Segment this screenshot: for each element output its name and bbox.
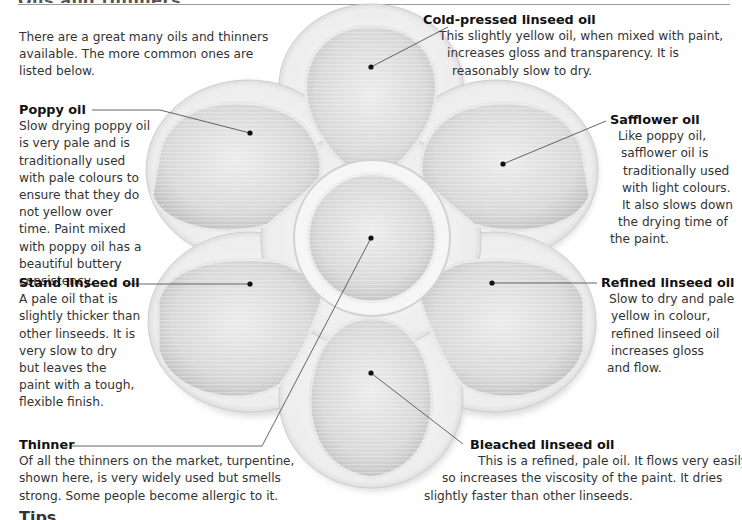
body-line: strong. Some people become allergic to i… xyxy=(19,488,319,505)
entry-body: Like poppy oil, safflower oil is traditi… xyxy=(610,128,740,248)
body-line: Slow drying poppy oil xyxy=(19,118,159,135)
entry-title: Bleached linseed oil xyxy=(430,436,740,453)
intro-line: available. The more common ones are xyxy=(19,46,219,63)
body-line: is very pale and is xyxy=(19,135,159,152)
body-line: with pale colours to xyxy=(19,170,159,187)
body-line: increases gloss and transparency. It is xyxy=(439,45,733,62)
entry-body: A pale oil that is slightly thicker than… xyxy=(19,291,144,411)
body-line: Of all the thinners on the market, turpe… xyxy=(19,453,319,470)
body-line: yellow in colour, xyxy=(609,308,741,325)
cold-pressed-linseed-oil-entry: Cold-pressed linseed oil This slightly y… xyxy=(423,11,733,80)
body-line: and flow. xyxy=(607,360,741,377)
body-line: beautiful buttery xyxy=(19,256,159,273)
body-line: so increases the viscosity of the paint.… xyxy=(430,470,740,487)
body-line: This is a refined, pale oil. It flows ve… xyxy=(430,453,740,470)
body-line: the drying time of xyxy=(618,214,740,231)
intro-line: There are a great many oils and thinners xyxy=(19,29,219,46)
thinner-entry: Thinner Of all the thinners on the marke… xyxy=(19,436,319,505)
next-section-heading-cut: Tips xyxy=(19,508,56,520)
body-line: traditionally used xyxy=(618,163,740,180)
entry-body: Slow drying poppy oil is very pale and i… xyxy=(19,118,159,290)
body-line: slightly thicker than xyxy=(19,308,144,325)
refined-linseed-oil-entry: Refined linseed oil Slow to dry and pale… xyxy=(601,274,741,377)
body-line: increases gloss xyxy=(609,343,741,360)
entry-body: Slow to dry and pale yellow in colour, r… xyxy=(601,291,741,377)
body-line: It also slows down xyxy=(618,197,740,214)
body-line: other linseeds. It is xyxy=(19,326,144,343)
entry-body: Of all the thinners on the market, turpe… xyxy=(19,453,319,505)
body-line: reasonably slow to dry. xyxy=(439,63,733,80)
body-line: time. Paint mixed xyxy=(19,221,159,238)
body-line: the paint. xyxy=(610,231,740,248)
entry-title: Poppy oil xyxy=(19,101,159,118)
body-line: very slow to dry xyxy=(19,343,144,360)
poppy-oil-entry: Poppy oil Slow drying poppy oil is very … xyxy=(19,101,159,290)
stand-linseed-oil-entry: Stand linseed oil A pale oil that is sli… xyxy=(19,274,144,412)
body-line: shown here, is very widely used but smel… xyxy=(19,470,319,487)
body-line: paint with a tough, xyxy=(19,377,144,394)
body-line: but leaves the xyxy=(19,360,144,377)
entry-body: This slightly yellow oil, when mixed wit… xyxy=(423,28,733,80)
intro-line: listed below. xyxy=(19,63,219,80)
intro-paragraph: There are a great many oils and thinners… xyxy=(19,29,219,81)
body-line: ensure that they do xyxy=(19,187,159,204)
body-line: flexible finish. xyxy=(19,394,144,411)
body-line: slightly faster than other linseeds. xyxy=(424,488,740,505)
entry-title: Stand linseed oil xyxy=(19,274,144,291)
body-line: traditionally used xyxy=(19,153,159,170)
bleached-linseed-oil-entry: Bleached linseed oil This is a refined, … xyxy=(430,436,740,505)
body-line: with light colours. xyxy=(618,180,740,197)
body-line: Slow to dry and pale xyxy=(609,291,741,308)
body-line: refined linseed oil xyxy=(609,326,741,343)
entry-title: Safflower oil xyxy=(610,111,740,128)
body-line: Like poppy oil, xyxy=(618,128,740,145)
body-line: not yellow over xyxy=(19,204,159,221)
safflower-oil-entry: Safflower oil Like poppy oil, safflower … xyxy=(610,111,740,249)
entry-title: Thinner xyxy=(19,436,319,453)
body-line: A pale oil that is xyxy=(19,291,144,308)
entry-body: This is a refined, pale oil. It flows ve… xyxy=(430,453,740,505)
body-line: safflower oil is xyxy=(618,145,740,162)
entry-title: Refined linseed oil xyxy=(601,274,741,291)
entry-title: Cold-pressed linseed oil xyxy=(423,11,733,28)
body-line: with poppy oil has a xyxy=(19,239,159,256)
body-line: This slightly yellow oil, when mixed wit… xyxy=(439,28,733,45)
